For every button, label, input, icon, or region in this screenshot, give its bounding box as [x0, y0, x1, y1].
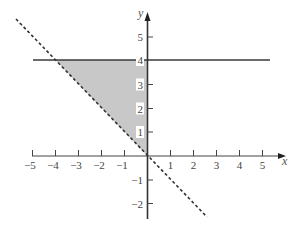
y-axis-label: y — [137, 6, 144, 20]
x-tick-label: 3 — [214, 159, 220, 171]
x-tick-label: −2 — [93, 159, 105, 171]
y-ticks — [148, 37, 154, 204]
y-tick-label: 4 — [138, 54, 144, 66]
x-tick-label: 1 — [168, 159, 174, 171]
y-tick-label: −2 — [131, 198, 143, 210]
coordinate-plane: −5 −4 −3 −2 −1 1 2 3 4 5 5 4 3 2 1 −1 −2… — [0, 0, 298, 233]
x-tick-label: −5 — [24, 159, 36, 171]
line-y-equals-neg-x — [16, 19, 207, 217]
y-tick-label: 5 — [138, 31, 144, 43]
y-axis-arrow-icon — [145, 12, 151, 21]
y-tick-label: 3 — [138, 79, 144, 91]
y-tick-label: −1 — [131, 174, 143, 186]
x-tick-label: −1 — [116, 159, 128, 171]
y-tick-label: 1 — [138, 126, 144, 138]
x-tick-label: 2 — [191, 159, 197, 171]
x-tick-label: −4 — [47, 159, 59, 171]
x-tick-label: −3 — [70, 159, 82, 171]
x-tick-labels: −5 −4 −3 −2 −1 1 2 3 4 5 — [24, 159, 266, 171]
x-tick-label: 4 — [237, 159, 243, 171]
x-axis-label: x — [281, 154, 288, 168]
x-tick-label: 5 — [260, 159, 266, 171]
y-tick-label: 2 — [138, 103, 144, 115]
